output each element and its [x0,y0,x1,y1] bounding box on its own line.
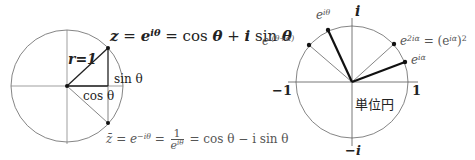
conjugate-formula: z̄ = e−iθ = 1eiθ = cos θ − i sin θ [106,128,289,151]
neg-imag-axis-label: −i [345,144,361,157]
unit-circle-label: 単位円 [355,98,394,111]
radius-label: r=1 [68,52,97,66]
point-eitheta [326,28,330,32]
ray-eialpha [352,62,405,82]
ray-eitheta [328,30,352,82]
cos-theta-label: cos θ [83,90,114,102]
ray-e2ialpha [352,44,394,82]
left-unit-circle-diagram [11,30,123,144]
right-unit-circle-diagram [288,18,418,146]
neg-one-label: −1 [272,84,292,97]
ray-e-i-theta-plus-alpha [309,45,352,82]
z-symbol: z [110,27,119,45]
origin-point [65,84,69,88]
label-eialpha: eiα [411,54,426,66]
point-e2ialpha [392,42,396,46]
point-eialpha [403,60,407,64]
fraction: 1eiθ [171,128,184,151]
zbar-point [106,121,110,125]
label-e-i-theta-plus-alpha: ei(θ+α) [262,35,294,47]
label-eitheta: eiθ [316,9,330,21]
z-point [106,46,110,50]
point-e-i-theta-plus-alpha [307,43,311,47]
sin-theta-label: sin θ [114,73,143,85]
imag-axis-label: i [355,4,360,18]
label-e2ialpha: e2iα = (eiα)2 [400,35,467,47]
pos-one-label: 1 [412,84,421,97]
